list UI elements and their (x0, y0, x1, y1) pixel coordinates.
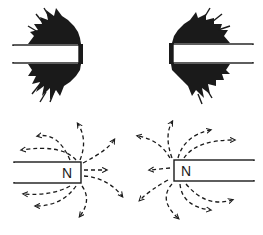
north-pole-label: N (181, 163, 191, 179)
magnet-diagram: N N (0, 0, 263, 235)
field-lines-left: N (10, 124, 122, 216)
field-lines-right: N (138, 122, 257, 218)
north-pole-label: N (62, 165, 72, 181)
bar-magnet (13, 45, 79, 63)
bar-magnet (173, 44, 253, 63)
iron-filings-right (169, 8, 256, 104)
iron-filings-left (10, 8, 83, 102)
